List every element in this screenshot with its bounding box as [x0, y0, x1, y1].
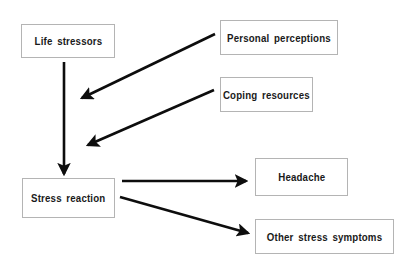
node-label-headache: Headache [278, 171, 325, 183]
node-headache: Headache [255, 158, 348, 196]
node-coping-resources: Coping resources [220, 77, 313, 112]
arrow-coping-resources-to-pathway [88, 90, 214, 145]
node-personal-perceptions: Personal perceptions [220, 20, 338, 55]
node-stress-reaction: Stress reaction [22, 178, 115, 218]
node-label-stress-reaction: Stress reaction [31, 192, 105, 204]
arrow-stress-reaction-to-other-symptoms [120, 197, 248, 233]
node-other-stress-symptoms: Other stress symptoms [255, 219, 394, 254]
node-label-personal-perceptions: Personal perceptions [227, 32, 331, 44]
node-label-coping-resources: Coping resources [223, 89, 310, 101]
node-life-stressors: Life stressors [21, 24, 115, 58]
stress-diagram: Life stressors Personal perceptions Copi… [0, 0, 415, 276]
node-label-other-stress-symptoms: Other stress symptoms [267, 231, 382, 243]
node-label-life-stressors: Life stressors [34, 35, 102, 47]
